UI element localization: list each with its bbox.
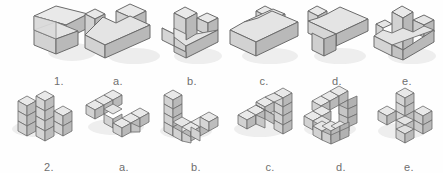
figure-r1-option-c[interactable]: c. <box>222 0 306 88</box>
figure-r2-option-d[interactable]: d. <box>300 85 382 173</box>
figure-r1-option-b[interactable]: b. <box>152 0 232 88</box>
figure-r2-option-c[interactable]: c. <box>230 85 310 173</box>
figure-r1-option-b-art <box>152 0 232 68</box>
figure-r2-option-a[interactable]: a. <box>82 85 166 173</box>
figure-r2-option-c-art <box>230 85 310 153</box>
figure-r1-option-a[interactable]: a. <box>72 0 164 88</box>
figure-label-r2-option-b: b. <box>156 161 236 173</box>
figure-label-r2-option-d: d. <box>300 161 382 173</box>
figure-r2-option-e[interactable]: e. <box>372 85 443 173</box>
figure-r1-option-d[interactable]: d. <box>296 0 378 88</box>
figure-r2-option-d-art <box>300 85 382 153</box>
worksheet-page: 1. <box>0 0 443 173</box>
figure-label-r2-option-e: e. <box>372 161 443 173</box>
figure-r1-option-c-art <box>222 0 306 68</box>
figure-label-r2-option-a: a. <box>82 161 166 173</box>
problem-row-1: 1. <box>0 0 443 88</box>
figure-r1-option-e[interactable]: e. <box>368 0 443 88</box>
figure-r2-question[interactable]: 2. <box>8 85 90 173</box>
figure-r2-option-b-art <box>156 85 236 153</box>
figure-r1-option-e-art <box>368 0 443 68</box>
figure-r1-option-a-art <box>72 0 164 68</box>
figure-r2-option-a-art <box>82 85 166 153</box>
figure-label-r2-option-c: c. <box>230 161 310 173</box>
figure-r2-option-e-art <box>372 85 443 153</box>
figure-r2-question-art <box>8 85 90 153</box>
figure-r1-option-d-art <box>296 0 378 68</box>
problem-row-2: 2. <box>0 85 443 173</box>
figure-label-r2-question: 2. <box>8 161 90 173</box>
figure-r2-option-b[interactable]: b. <box>156 85 236 173</box>
